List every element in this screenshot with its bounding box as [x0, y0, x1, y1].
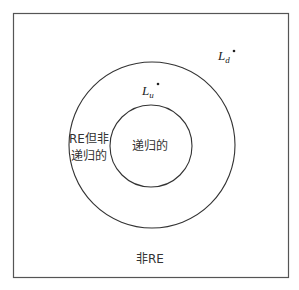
- lu-symbol: L: [141, 83, 149, 98]
- non-re-label: 非RE: [136, 252, 164, 266]
- re-not-recursive-label-line1: RE但非: [69, 132, 109, 146]
- lu-dot: [157, 83, 160, 86]
- point-ld: Ld: [217, 48, 235, 65]
- ld-dot: [233, 50, 236, 53]
- svg-text:Lu: Lu: [141, 83, 154, 100]
- point-lu: Lu: [141, 83, 159, 100]
- svg-text:Ld: Ld: [217, 48, 230, 65]
- nested-sets-diagram: 递归的 RE但非 递归的 非RE Lu Ld: [0, 0, 299, 290]
- lu-subscript: u: [149, 90, 154, 100]
- ld-subscript: d: [225, 55, 230, 65]
- re-not-recursive-label-line2: 递归的: [71, 148, 107, 163]
- ld-symbol: L: [217, 48, 225, 63]
- recursive-label: 递归的: [132, 138, 168, 153]
